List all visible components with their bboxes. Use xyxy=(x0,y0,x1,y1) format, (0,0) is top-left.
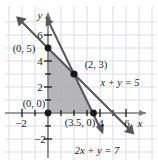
x-tick-label-neg2: −2 xyxy=(15,117,27,129)
point-x-intercept xyxy=(90,110,97,117)
x-axis-label: x xyxy=(137,117,143,129)
point-label-y-intercept: (0, 5) xyxy=(13,43,36,55)
graph-svg: x y −2 4 6 −2 2 4 6 (0, 0) (0, 5) (2, 3)… xyxy=(0,0,158,164)
y-tick-label-2: 2 xyxy=(37,81,43,93)
y-axis-label: y xyxy=(37,9,43,21)
equation-label-line-1: x + y = 5 xyxy=(99,77,139,88)
y-tick-label-4: 4 xyxy=(37,55,43,67)
point-origin xyxy=(45,110,52,117)
coordinate-plane-figure: x y −2 4 6 −2 2 4 6 (0, 0) (0, 5) (2, 3)… xyxy=(0,0,158,164)
equation-label-line-2: 2x + y = 7 xyxy=(75,145,120,156)
y-tick-label-neg2: −2 xyxy=(34,133,46,145)
point-label-intersection: (2, 3) xyxy=(85,59,108,71)
point-y-intercept xyxy=(45,45,52,52)
x-tick-label-6: 6 xyxy=(124,117,130,129)
point-intersection xyxy=(70,70,77,77)
point-label-origin: (0, 0) xyxy=(23,98,46,110)
y-tick-label-6: 6 xyxy=(37,29,43,41)
x-tick-label-4: 4 xyxy=(98,117,104,129)
point-label-x-intercept: (3.5, 0) xyxy=(65,117,96,129)
